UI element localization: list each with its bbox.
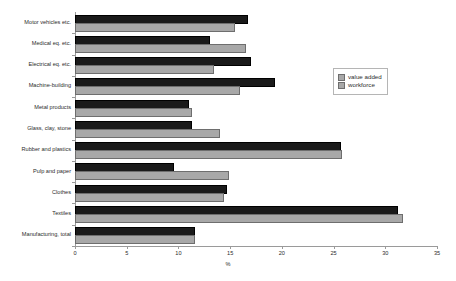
value-tick-label: 25 [324,251,344,257]
value-tick-label: 5 [117,251,137,257]
chart-legend: value added workforce [333,68,388,95]
category-tick [72,225,75,226]
value-tick-mark [127,246,128,249]
value-tick-mark [385,246,386,249]
value-axis-line [75,246,437,247]
category-label: Pulp and paper [33,169,71,175]
plot-area [75,12,437,246]
legend-label-value-added: value added [348,74,382,80]
bar-value-added [75,193,224,202]
category-tick [72,203,75,204]
value-tick-mark [230,246,231,249]
value-tick-mark [334,246,335,249]
category-tick [72,161,75,162]
bar-group [75,12,437,33]
category-tick [72,55,75,56]
category-label: Machine-building [29,83,71,89]
bar-value-added [75,235,195,244]
legend-item-value-added: value added [338,74,382,81]
legend-item-workforce: workforce [338,82,382,89]
bar-group [75,97,437,118]
bar-chart: Motor vehicles etc.Medical eq. etc.Elect… [0,0,456,281]
bar-value-added [75,44,246,53]
legend-label-workforce: workforce [348,82,375,88]
bar-group [75,182,437,203]
bar-value-added [75,86,240,95]
bar-value-added [75,214,403,223]
value-tick-label: 20 [272,251,292,257]
category-label: Manufacturing, total [22,232,71,238]
bar-value-added [75,150,342,159]
value-tick-label: 35 [427,251,447,257]
category-label: Glass, clay, stone [27,126,71,132]
bar-value-added [75,108,192,117]
value-tick-mark [437,246,438,249]
bar-group [75,203,437,224]
bar-value-added [75,171,229,180]
bar-value-added [75,65,214,74]
value-tick-label: 0 [65,251,85,257]
category-label: Electrical eq. etc. [28,62,71,68]
category-label: Metal products [34,105,71,111]
workforce-swatch-icon [338,82,345,89]
x-axis-title: % [0,261,456,267]
value-tick-mark [178,246,179,249]
value-tick-label: 30 [375,251,395,257]
category-tick [72,140,75,141]
category-label: Textiles [52,211,71,217]
category-tick [72,182,75,183]
bar-value-added [75,129,220,138]
category-tick [72,118,75,119]
bar-group [75,140,437,161]
category-tick [72,97,75,98]
bar-group [75,118,437,139]
value-tick-mark [75,246,76,249]
value-tick-label: 10 [168,251,188,257]
category-tick [72,33,75,34]
bar-group [75,225,437,246]
category-label: Rubber and plastics [22,147,71,153]
value-tick-label: 15 [220,251,240,257]
bar-value-added [75,23,235,32]
bar-group [75,33,437,54]
bar-group [75,161,437,182]
value-added-swatch-icon [338,74,345,81]
category-label: Clothes [52,190,71,196]
category-tick [72,76,75,77]
category-label: Medical eq. etc. [32,41,71,47]
category-label: Motor vehicles etc. [24,20,71,26]
value-tick-mark [282,246,283,249]
